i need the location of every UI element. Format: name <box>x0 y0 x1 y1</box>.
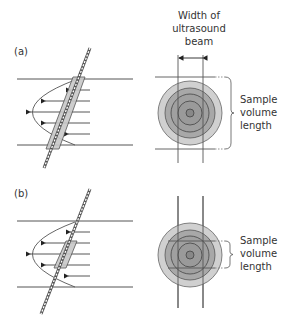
ultrasound-beam-line <box>44 48 90 168</box>
panel-a-cross-section: Sample volume length <box>155 55 278 163</box>
beam-width-label-line3: beam <box>185 36 213 47</box>
ring-core <box>186 251 194 259</box>
ring-core <box>186 109 194 117</box>
panel-b-label: (b) <box>14 188 28 199</box>
panel-a: (a) <box>14 46 133 168</box>
sample-volume-brace <box>225 241 233 268</box>
sample-volume-label-line1: Sample <box>240 94 278 105</box>
beam-width-label-line1: Width of <box>178 10 220 21</box>
sample-volume-label-line2: volume <box>240 107 277 118</box>
panel-a-label: (a) <box>14 46 28 57</box>
beam-width-label-line2: ultrasound <box>172 23 226 34</box>
sample-volume-label-line2: volume <box>240 248 277 259</box>
sample-volume-label-line3: length <box>240 120 272 131</box>
beam-width-annotation: Width of ultrasound beam <box>172 10 226 58</box>
sample-volume-label-line3: length <box>240 261 272 272</box>
doppler-sample-volume-diagram: (a) Width of ultrasound beam <box>0 0 286 327</box>
panel-b-cross-section: Sample volume length <box>158 196 278 308</box>
panel-b: (b) <box>14 188 133 314</box>
sample-volume-brace <box>225 77 234 149</box>
sample-volume-label-line1: Sample <box>240 235 278 246</box>
ultrasound-beam-line <box>41 189 90 314</box>
